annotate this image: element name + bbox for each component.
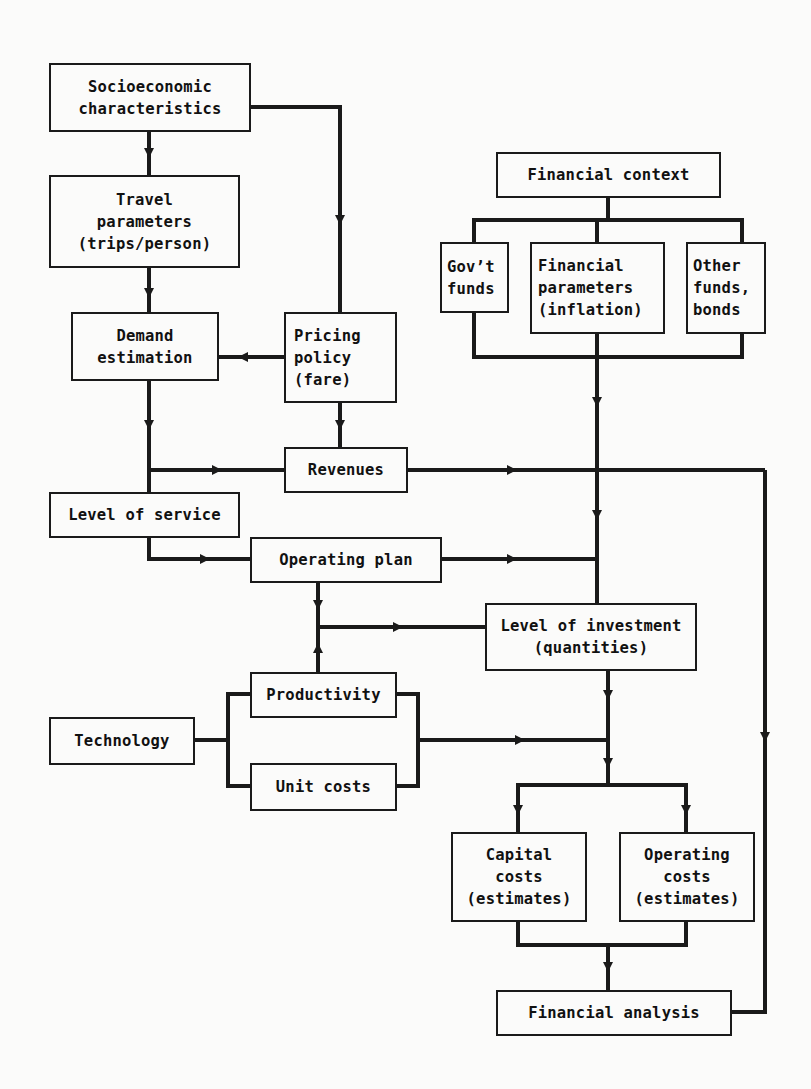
flowchart: Socioeconomic characteristics Travel par… bbox=[0, 0, 811, 1089]
node-financial-analysis: Financial analysis bbox=[496, 990, 732, 1036]
node-operating-costs: Operating costs (estimates) bbox=[619, 832, 755, 922]
node-level-of-investment: Level of investment (quantities) bbox=[485, 603, 697, 671]
node-financial-context: Financial context bbox=[496, 152, 721, 198]
node-travel-parameters: Travel parameters (trips/person) bbox=[49, 175, 240, 268]
node-socioeconomic-characteristics: Socioeconomic characteristics bbox=[49, 63, 251, 132]
node-other-funds-bonds: Other funds, bonds bbox=[686, 242, 766, 334]
node-operating-plan: Operating plan bbox=[250, 537, 442, 583]
node-capital-costs: Capital costs (estimates) bbox=[451, 832, 587, 922]
node-level-of-service: Level of service bbox=[49, 492, 240, 538]
node-revenues: Revenues bbox=[284, 447, 408, 493]
node-technology: Technology bbox=[49, 717, 195, 765]
node-unit-costs: Unit costs bbox=[250, 763, 397, 811]
node-financial-parameters: Financial parameters (inflation) bbox=[530, 242, 665, 334]
node-govt-funds: Gov’t funds bbox=[440, 242, 509, 313]
node-productivity: Productivity bbox=[250, 672, 397, 718]
node-demand-estimation: Demand estimation bbox=[71, 312, 219, 381]
node-pricing-policy: Pricing policy (fare) bbox=[284, 312, 397, 403]
